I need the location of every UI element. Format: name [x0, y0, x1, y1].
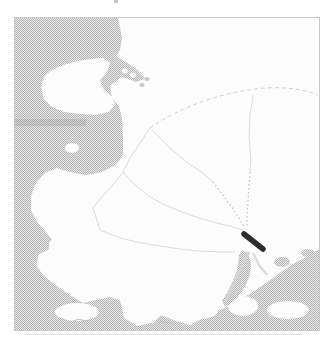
- cropped-caption-mark: [114, 0, 118, 3]
- bottom-island-5: [267, 301, 309, 319]
- bottom-island-1: [55, 303, 99, 321]
- bay-islet: [65, 143, 79, 153]
- arm-islet-2: [139, 83, 144, 87]
- map-layers: [14, 0, 320, 335]
- dark-water-band: [14, 119, 86, 126]
- bottom-island-3: [178, 303, 218, 319]
- inlet-islet: [49, 239, 61, 249]
- arm-islet-1: [144, 77, 149, 81]
- se-islet-4: [284, 275, 300, 285]
- se-islet-3: [301, 249, 315, 257]
- region-map: [0, 0, 326, 345]
- channel-islet-2: [130, 73, 136, 78]
- figure-page: [0, 0, 326, 345]
- se-islet-1: [274, 257, 290, 267]
- channel-islet-1: [122, 69, 128, 74]
- se-islet-2: [290, 264, 310, 276]
